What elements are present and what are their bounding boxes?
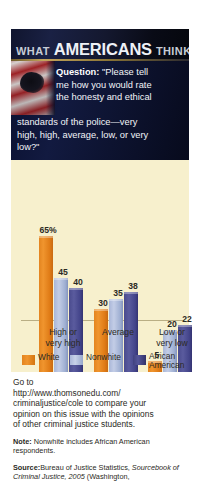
legend-label-nonwhite: Nonwhite bbox=[86, 353, 121, 362]
flag-shadow bbox=[46, 61, 55, 115]
note-label: Note: bbox=[13, 437, 32, 446]
goto-line-1: Go to bbox=[13, 377, 33, 387]
question-line-2: me how you would rate bbox=[56, 80, 152, 90]
category-label-high-line1: High or bbox=[33, 327, 93, 338]
goto-url[interactable]: http://www.thomsonedu.com/ bbox=[13, 388, 121, 398]
category-label-low: Low or very low bbox=[142, 327, 200, 348]
question-line-5: high, high, average, low, or very bbox=[17, 130, 148, 140]
legend-label-white: White bbox=[38, 353, 59, 362]
question-text-bottom: standards of the police—very high, high,… bbox=[17, 116, 187, 154]
bar-value-african-high: 40 bbox=[67, 277, 89, 287]
category-label-high: High or very high bbox=[33, 327, 93, 348]
bar-highlight bbox=[94, 309, 108, 311]
legend-label-african-american: African American bbox=[149, 352, 193, 370]
source-text-before: Bureau of Justice Statistics, bbox=[40, 463, 132, 472]
title-word-think: THINK bbox=[156, 45, 189, 57]
bar-group-average: 30 35 38 bbox=[94, 212, 144, 372]
category-label-average-line1: Average bbox=[88, 327, 148, 338]
category-label-low-line2: very low bbox=[142, 338, 200, 349]
question-line-1: "Please tell bbox=[102, 67, 148, 77]
figure-note: Note: Nonwhite includes African American… bbox=[13, 437, 190, 456]
category-label-low-line1: Low or bbox=[142, 327, 200, 338]
bar-highlight bbox=[124, 292, 138, 294]
question-line-6: low?" bbox=[17, 142, 39, 152]
what-americans-think-figure: WHATAMERICANSTHINK Question: "Please tel… bbox=[0, 0, 200, 488]
goto-line-4: opinion on this issue with the opinions bbox=[13, 409, 154, 419]
chart-legend: White Nonwhite African American bbox=[11, 353, 189, 373]
category-label-high-line2: very high bbox=[33, 338, 93, 349]
bar-value-white-high: 65% bbox=[37, 225, 59, 235]
figure-source: Source:Bureau of Justice Statistics, Sou… bbox=[13, 463, 190, 482]
source-text-after: (Washington, bbox=[85, 472, 130, 481]
title-word-americans: AMERICANS bbox=[54, 40, 152, 58]
goto-line-5: of other criminal justice students. bbox=[13, 419, 135, 429]
goto-line-3: criminaljustice/cole to compare your bbox=[13, 398, 146, 408]
bar-value-nonwhite-high: 45 bbox=[52, 267, 74, 277]
bar-highlight bbox=[109, 299, 123, 301]
bar-group-high-or-very-high: 65% 45 40 bbox=[39, 212, 89, 372]
question-panel: Question: "Please tell me how you would … bbox=[11, 59, 189, 160]
bar-group-low-or-very-low: 5 20 22 bbox=[148, 212, 198, 372]
category-label-average: Average bbox=[88, 327, 148, 338]
bar-highlight bbox=[69, 288, 83, 290]
bar-value-african-average: 38 bbox=[122, 281, 144, 291]
question-text-top: Question: "Please tell me how you would … bbox=[56, 66, 186, 104]
question-line-4: standards of the police—very bbox=[17, 117, 137, 127]
legend-swatch-african-american bbox=[133, 355, 146, 365]
legend-swatch-nonwhite bbox=[70, 355, 83, 365]
bar-value-african-low: 22 bbox=[176, 314, 198, 324]
question-line-3: the honesty and ethical bbox=[56, 92, 152, 102]
bar-chart: 65% 45 40 30 35 bbox=[11, 160, 189, 372]
bar-highlight bbox=[39, 236, 53, 238]
title-word-what: WHAT bbox=[16, 45, 50, 57]
flag-silhouette bbox=[20, 72, 44, 93]
source-label: Source: bbox=[13, 463, 40, 472]
header-banner: WHATAMERICANSTHINK bbox=[11, 29, 189, 59]
note-text: Nonwhite includes African American respo… bbox=[13, 437, 150, 455]
figure-footer: Go to http://www.thomsonedu.com/ crimina… bbox=[13, 377, 190, 482]
bar-highlight bbox=[54, 278, 68, 280]
legend-swatch-white bbox=[22, 355, 35, 365]
page-title: WHATAMERICANSTHINK bbox=[16, 41, 189, 58]
question-label: Question: bbox=[56, 67, 99, 77]
american-flag-photo bbox=[11, 61, 55, 115]
goto-instructions: Go to http://www.thomsonedu.com/ crimina… bbox=[13, 377, 190, 430]
